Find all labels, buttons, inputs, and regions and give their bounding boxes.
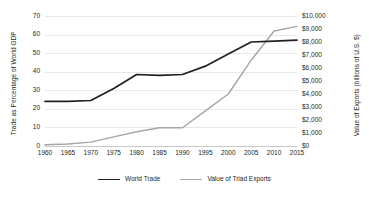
left-axis-title: Trade as Percentage of World GDP (11, 13, 18, 153)
legend-item[interactable]: World Trade (98, 176, 160, 183)
right-axis-tick-label: $7,000 (302, 52, 342, 59)
chart-legend: World TradeValue of Triad Exports (0, 176, 369, 183)
right-axis-tick-label: $2,000 (302, 117, 342, 124)
series-line-value-of-triad-exports (45, 26, 297, 144)
right-axis-tick-label: $6,000 (302, 65, 342, 72)
right-axis-tick-label: $9,000 (302, 26, 342, 33)
left-axis-tick-label: 0 (18, 143, 40, 150)
right-axis-tick-label: $10,000 (302, 13, 342, 20)
right-axis-tick-label: $0 (302, 143, 342, 150)
line-swatch-gray (180, 179, 202, 180)
right-axis-tick-label: $5,000 (302, 78, 342, 85)
x-axis-tick-label: 2015 (282, 150, 312, 157)
left-axis-tick-label: 30 (18, 87, 40, 94)
left-axis-tick-label: 20 (18, 105, 40, 112)
right-axis-title: Value of Exports (billions of U.S. $) (354, 15, 361, 155)
right-axis-tick-label: $4,000 (302, 91, 342, 98)
line-swatch-dark (98, 179, 120, 180)
left-axis-tick-label: 70 (18, 13, 40, 20)
series-lines (45, 16, 297, 146)
left-axis-tick-label: 60 (18, 31, 40, 38)
left-axis-tick-label: 50 (18, 50, 40, 57)
right-axis-tick-label: $8,000 (302, 39, 342, 46)
legend-item[interactable]: Value of Triad Exports (180, 176, 270, 183)
left-axis-tick-label: 10 (18, 124, 40, 131)
left-axis-tick-label: 40 (18, 68, 40, 75)
legend-label: World Trade (125, 176, 160, 183)
legend-label: Value of Triad Exports (207, 176, 270, 183)
right-axis-tick-label: $1,000 (302, 130, 342, 137)
right-axis-tick-label: $3,000 (302, 104, 342, 111)
plot-area (45, 16, 297, 146)
chart-container: Trade as Percentage of World GDP Value o… (0, 0, 369, 201)
gridline (45, 146, 297, 147)
